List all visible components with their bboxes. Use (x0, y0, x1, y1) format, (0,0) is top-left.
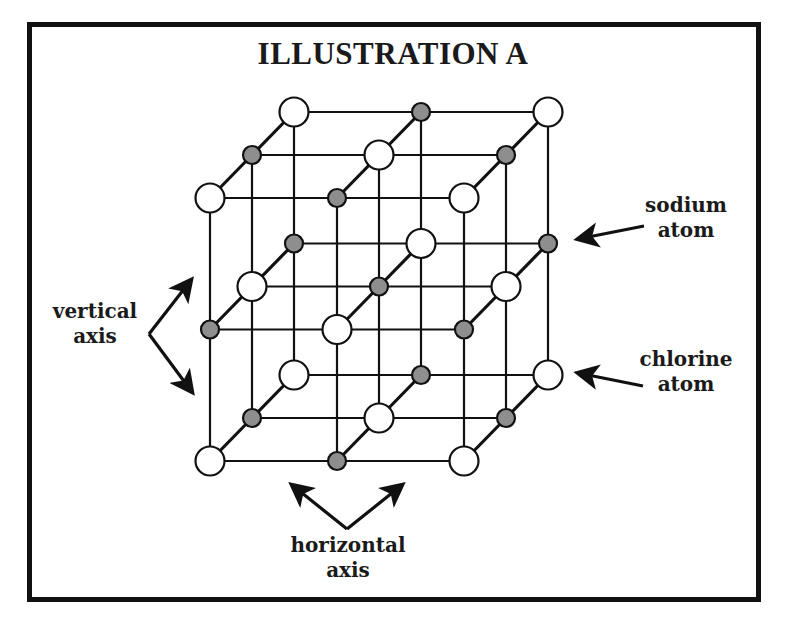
vertical-label-line2: axis (40, 324, 150, 349)
chlorine-atom-icon (365, 404, 394, 433)
sodium-atom-icon (243, 409, 261, 427)
chlorine-atom-icon (534, 98, 563, 127)
chlorine-atom-icon (323, 315, 352, 344)
chlorine-label-line1: chlorine (626, 347, 746, 372)
chlorine-atom-icon (238, 272, 267, 301)
vertical-axis-arrow-icon (149, 280, 192, 392)
chlorine-atom-icon (450, 184, 479, 213)
sodium-atom-label: sodium atom (626, 193, 746, 243)
vertical-label-line1: vertical (40, 299, 150, 324)
sodium-atom-icon (412, 103, 430, 121)
horizontal-axis-arrow-icon (292, 485, 402, 529)
sodium-atom-icon (497, 146, 515, 164)
sodium-atom-icon (497, 409, 515, 427)
sodium-label-line2: atom (626, 218, 746, 243)
chlorine-atom-icon (196, 447, 225, 476)
sodium-atom-icon (328, 452, 346, 470)
chlorine-atom-icon (407, 229, 436, 258)
horizontal-axis-label: horizontal axis (277, 533, 419, 583)
sodium-atom-icon (285, 235, 303, 253)
lattice-atoms (196, 98, 563, 476)
sodium-label-line1: sodium (626, 193, 746, 218)
chlorine-atom-icon (534, 361, 563, 390)
horizontal-label-line1: horizontal (277, 533, 419, 558)
chlorine-atom-icon (280, 98, 309, 127)
chlorine-atom-icon (492, 272, 521, 301)
sodium-atom-icon (539, 235, 557, 253)
vertical-axis-label: vertical axis (40, 299, 150, 349)
sodium-atom-icon (201, 321, 219, 339)
sodium-atom-icon (455, 321, 473, 339)
chlorine-atom-icon (280, 361, 309, 390)
sodium-atom-icon (243, 146, 261, 164)
horizontal-label-line2: axis (277, 558, 419, 583)
chlorine-atom-icon (196, 184, 225, 213)
chlorine-label-line2: atom (626, 372, 746, 397)
chlorine-atom-label: chlorine atom (626, 347, 746, 397)
sodium-atom-icon (370, 278, 388, 296)
sodium-atom-icon (328, 189, 346, 207)
chlorine-atom-icon (450, 447, 479, 476)
sodium-atom-icon (412, 366, 430, 384)
chlorine-atom-icon (365, 141, 394, 170)
